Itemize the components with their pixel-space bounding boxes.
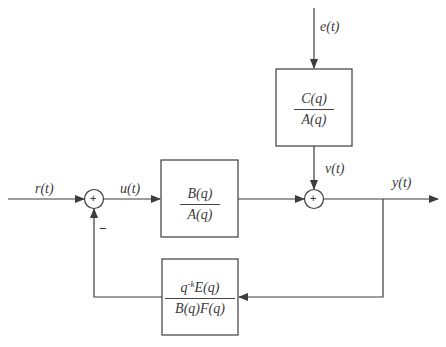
disturbance-label: e(t) — [320, 20, 339, 34]
q-symbol: q — [181, 280, 188, 295]
plant-transfer-function: B(q) A(q) — [180, 186, 220, 223]
feedback-denominator: B(q)F(q) — [173, 299, 227, 317]
feedback-transfer-function: q-kE(q) B(q)F(q) — [165, 279, 235, 317]
delay-exponent: -k — [188, 279, 195, 289]
noise-label: v(t) — [325, 162, 344, 176]
input-sum-plus-sign: + — [90, 193, 96, 204]
e-polynomial: E(q) — [195, 280, 220, 295]
feedback-branch-line — [239, 199, 383, 297]
noise-numerator: C(q) — [299, 91, 329, 109]
feedback-minus-sign: − — [99, 222, 107, 235]
feedback-numerator: q-kE(q) — [179, 279, 222, 298]
plant-denominator: A(q) — [186, 205, 215, 223]
plant-numerator: B(q) — [186, 186, 215, 204]
output-label: y(t) — [392, 176, 411, 190]
reference-label: r(t) — [35, 182, 54, 196]
noise-transfer-function: C(q) A(q) — [294, 91, 334, 128]
noise-denominator: A(q) — [300, 110, 329, 128]
output-sum-plus-sign: + — [310, 193, 316, 204]
control-label: u(t) — [120, 182, 140, 196]
